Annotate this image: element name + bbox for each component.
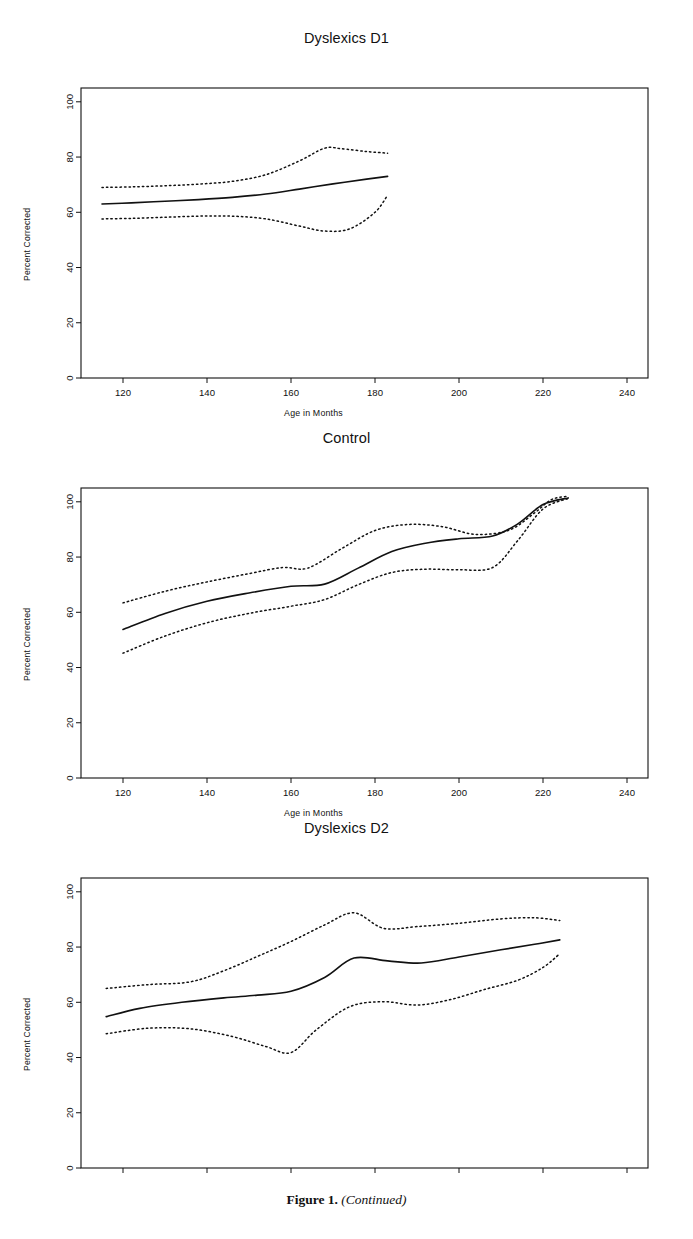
caption-continued: (Continued)	[341, 1192, 406, 1207]
plot-area: 020406080100120140160180200220240Percent…	[0, 820, 693, 1180]
x-tick-label: 180	[367, 1177, 383, 1180]
plot-svg: 020406080100120140160180200220240	[0, 430, 693, 820]
chart-panel-dyslexics-d2: Dyslexics D2 020406080100120140160180200…	[0, 820, 693, 1180]
plot-area: 020406080100120140160180200220240Percent…	[0, 430, 693, 820]
y-tick-label: 40	[64, 662, 75, 673]
x-tick-label: 220	[535, 1177, 551, 1180]
plot-frame	[81, 488, 648, 778]
y-tick-label: 60	[64, 207, 75, 218]
y-axis-title: Percent Corrected	[22, 208, 32, 281]
x-tick-label: 160	[283, 387, 299, 398]
x-tick-label: 160	[283, 1177, 299, 1180]
x-tick-label: 140	[199, 387, 215, 398]
x-tick-label: 140	[199, 787, 215, 798]
y-tick-label: 80	[64, 942, 75, 953]
series-upper-confidence-band	[123, 496, 568, 603]
chart-panel-dyslexics-d1: Dyslexics D1 020406080100120140160180200…	[0, 30, 693, 420]
x-axis-title: Age in Months	[30, 808, 597, 818]
plot-svg: 020406080100120140160180200220240	[0, 820, 693, 1180]
x-tick-label: 240	[619, 1177, 635, 1180]
series-fit	[123, 498, 568, 629]
chart-panel-control: Control 02040608010012014016018020022024…	[0, 430, 693, 820]
x-tick-label: 240	[619, 387, 635, 398]
y-tick-label: 80	[64, 152, 75, 163]
y-tick-label: 40	[64, 262, 75, 273]
x-tick-label: 120	[115, 387, 131, 398]
y-tick-label: 60	[64, 607, 75, 618]
plot-area: 020406080100120140160180200220240Percent…	[0, 30, 693, 420]
figure-caption: Figure 1. (Continued)	[0, 1192, 693, 1208]
x-tick-label: 220	[535, 787, 551, 798]
y-tick-label: 100	[64, 94, 75, 110]
x-tick-label: 200	[451, 1177, 467, 1180]
y-tick-label: 80	[64, 552, 75, 563]
x-tick-label: 200	[451, 387, 467, 398]
plot-frame	[81, 88, 648, 378]
y-tick-label: 60	[64, 997, 75, 1008]
y-tick-label: 20	[64, 1107, 75, 1118]
series-lower-confidence-band	[102, 195, 388, 231]
x-tick-label: 120	[115, 787, 131, 798]
x-tick-label: 120	[115, 1177, 131, 1180]
y-tick-label: 0	[64, 775, 75, 780]
y-tick-label: 0	[64, 375, 75, 380]
x-tick-label: 200	[451, 787, 467, 798]
x-tick-label: 180	[367, 787, 383, 798]
y-axis-title: Percent Corrected	[22, 608, 32, 681]
y-axis-title: Percent Corrected	[22, 998, 32, 1071]
y-tick-label: 100	[64, 494, 75, 510]
series-fit	[102, 176, 388, 204]
series-fit	[106, 940, 560, 1017]
x-tick-label: 220	[535, 387, 551, 398]
plot-svg: 020406080100120140160180200220240	[0, 30, 693, 420]
y-tick-label: 100	[64, 884, 75, 900]
x-tick-label: 240	[619, 787, 635, 798]
x-axis-title: Age in Months	[30, 408, 597, 418]
y-tick-label: 0	[64, 1165, 75, 1170]
figure-page: Dyslexics D1 020406080100120140160180200…	[0, 0, 693, 1239]
x-tick-label: 140	[199, 1177, 215, 1180]
y-tick-label: 20	[64, 717, 75, 728]
y-tick-label: 20	[64, 317, 75, 328]
series-lower-confidence-band	[123, 499, 568, 654]
plot-frame	[81, 878, 648, 1168]
y-tick-label: 40	[64, 1052, 75, 1063]
caption-label: Figure 1.	[286, 1192, 338, 1207]
x-tick-label: 180	[367, 387, 383, 398]
x-tick-label: 160	[283, 787, 299, 798]
